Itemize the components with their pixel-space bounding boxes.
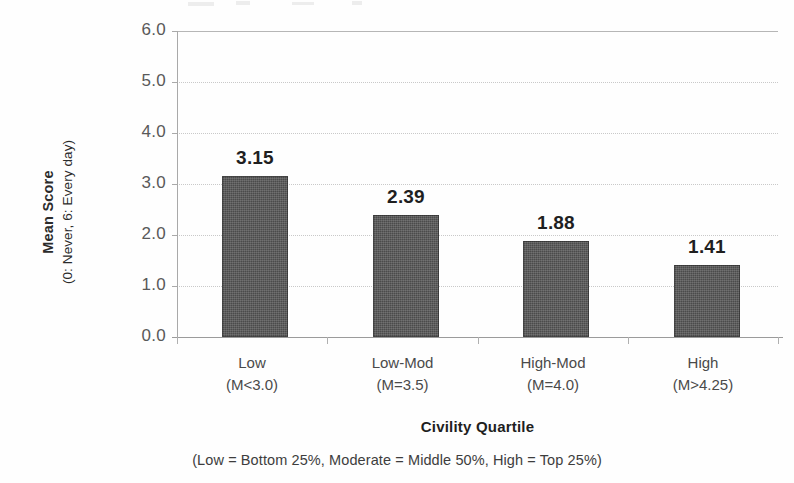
scan-artifact: [188, 2, 214, 6]
y-tick-label: 1.0: [96, 275, 166, 295]
x-category-range: (M=3.5): [327, 374, 478, 396]
y-axis-title-sub: (0: Never, 6: Every day): [59, 140, 77, 284]
x-axis-title: Civility Quartile: [177, 418, 778, 435]
y-tick-label: 3.0: [96, 173, 166, 193]
y-axis-tick-labels: 6.0 5.0 4.0 3.0 2.0 1.0 0.0: [96, 0, 166, 483]
bar-low: [222, 176, 288, 337]
y-tick-label: 2.0: [96, 224, 166, 244]
x-category-range: (M>4.25): [628, 374, 778, 396]
plot-area: 3.15 2.39 1.88 1.41: [177, 31, 778, 337]
bar-low-mod: [373, 215, 439, 337]
bar-high: [674, 265, 740, 337]
gridline-6: [177, 31, 778, 32]
x-tick-label-high-mod: High-Mod (M=4.0): [478, 352, 628, 396]
bar-chart-figure: Mean Score (0: Never, 6: Every day) 6.0 …: [0, 0, 794, 483]
x-tick-mark: [478, 337, 479, 344]
x-tick-mark: [778, 337, 779, 344]
y-tick-label: 6.0: [96, 20, 166, 40]
bar-high-mod: [523, 241, 589, 337]
x-axis-caption: (Low = Bottom 25%, Moderate = Middle 50%…: [0, 452, 794, 468]
x-category-name: Low-Mod: [327, 352, 478, 374]
x-tick-label-low-mod: Low-Mod (M=3.5): [327, 352, 478, 396]
x-category-name: High-Mod: [478, 352, 628, 374]
y-tick-label: 0.0: [96, 326, 166, 346]
y-axis-line: [177, 31, 178, 339]
y-tick-label: 4.0: [96, 122, 166, 142]
x-category-name: High: [628, 352, 778, 374]
y-tick-label: 5.0: [96, 71, 166, 91]
x-tick-mark: [327, 337, 328, 344]
scan-artifact: [292, 2, 314, 5]
bar-value-label-low-mod: 2.39: [356, 186, 456, 208]
bar-value-label-high-mod: 1.88: [506, 212, 606, 234]
x-tick-mark: [177, 337, 178, 344]
x-tick-label-high: High (M>4.25): [628, 352, 778, 396]
bar-value-label-low: 3.15: [205, 147, 305, 169]
x-category-range: (M=4.0): [478, 374, 628, 396]
y-axis-title-main: Mean Score: [39, 170, 59, 253]
x-category-name: Low: [177, 352, 327, 374]
x-tick-label-low: Low (M<3.0): [177, 352, 327, 396]
x-tick-mark: [628, 337, 629, 344]
x-category-range: (M<3.0): [177, 374, 327, 396]
scan-artifact: [352, 1, 362, 5]
y-axis-title: Mean Score (0: Never, 6: Every day): [30, 62, 86, 362]
scan-artifact: [236, 1, 250, 5]
bar-value-label-high: 1.41: [657, 236, 757, 258]
gridline-4: [177, 133, 778, 134]
gridline-5: [177, 82, 778, 83]
